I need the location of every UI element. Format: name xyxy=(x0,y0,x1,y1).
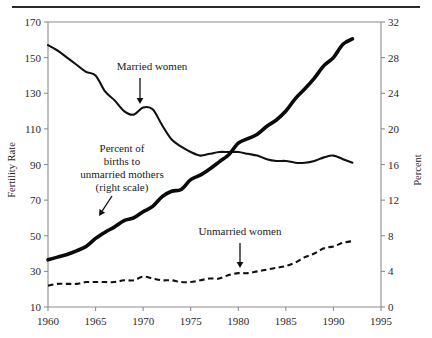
annotation-label-percent-unmarried-mothers: unmarried mothers xyxy=(80,168,163,180)
figure-container: 1030507090110130150170048121620242832196… xyxy=(0,0,432,338)
y2-tick-label: 28 xyxy=(388,52,400,64)
series-line-unmarried-women xyxy=(48,241,352,286)
annotation-label-unmarried-women: Unmarried women xyxy=(199,225,282,237)
series-line-married-women xyxy=(48,45,352,163)
annotation-arrow-percent-unmarried-mothers xyxy=(102,196,112,211)
y-tick-label: 150 xyxy=(25,52,42,64)
y-tick-label: 50 xyxy=(30,230,42,242)
y-tick-label: 130 xyxy=(25,87,42,99)
y-tick-label: 110 xyxy=(25,123,42,135)
y2-tick-label: 0 xyxy=(388,301,394,313)
chart-annotations: Married womenPercent ofbirths tounmarrie… xyxy=(80,60,282,268)
secondary-y-axis-title: Percent xyxy=(412,154,423,186)
y2-tick-label: 4 xyxy=(388,265,394,277)
y-tick-label: 170 xyxy=(25,16,42,28)
data-series xyxy=(48,39,352,286)
y-tick-label: 70 xyxy=(30,194,42,206)
annotation-label-percent-unmarried-mothers: births to xyxy=(104,155,141,167)
y2-tick-label: 32 xyxy=(388,16,399,28)
x-tick-label: 1965 xyxy=(85,315,108,327)
x-tick-label: 1990 xyxy=(322,315,345,327)
fertility-rate-line-chart: 1030507090110130150170048121620242832196… xyxy=(0,0,432,338)
x-tick-label: 1975 xyxy=(180,315,203,327)
x-tick-label: 1970 xyxy=(132,315,155,327)
y2-tick-label: 8 xyxy=(388,230,394,242)
x-tick-label: 1995 xyxy=(370,315,393,327)
annotation-arrowhead-unmarried-women xyxy=(237,262,244,268)
y-axis-title: Fertility Rate xyxy=(6,142,17,198)
x-tick-label: 1980 xyxy=(227,315,250,327)
x-tick-label: 1960 xyxy=(37,315,60,327)
y-tick-label: 30 xyxy=(30,265,42,277)
annotation-arrowhead-married-women xyxy=(137,98,144,104)
annotation-label-married-women: Married women xyxy=(117,60,188,72)
annotation-label-percent-unmarried-mothers: Percent of xyxy=(100,142,145,154)
y2-tick-label: 12 xyxy=(388,194,399,206)
x-tick-label: 1985 xyxy=(275,315,298,327)
y-tick-label: 90 xyxy=(30,159,42,171)
y-tick-label: 10 xyxy=(30,301,42,313)
annotation-label-percent-unmarried-mothers: (right scale) xyxy=(96,181,149,194)
y2-tick-label: 16 xyxy=(388,159,400,171)
y2-tick-label: 20 xyxy=(388,123,400,135)
y2-tick-label: 24 xyxy=(388,87,400,99)
